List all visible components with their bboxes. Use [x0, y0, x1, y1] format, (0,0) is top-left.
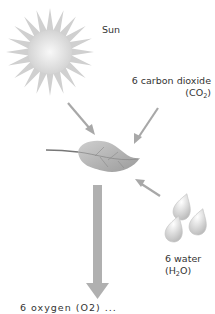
- water-formula: (H2O): [165, 265, 201, 280]
- water-drops-icon: [163, 191, 210, 243]
- leaf-icon: [46, 141, 140, 172]
- arrow-water-to-leaf: [135, 179, 160, 196]
- arrow-sun-to-leaf: [68, 103, 95, 135]
- sun-label: Sun: [102, 24, 120, 36]
- formula-text: O): [180, 265, 191, 276]
- formula-text: ): [207, 87, 211, 98]
- arrow-output-down: [86, 185, 109, 299]
- formula-text: (CO: [185, 87, 203, 98]
- carbon-dioxide-label: 6 carbon dioxide (CO2): [132, 75, 211, 102]
- formula-text: (H: [165, 265, 176, 276]
- arrow-co2-to-leaf: [134, 108, 158, 144]
- sun-icon: [6, 8, 94, 96]
- output-label-clipped: 6 oxygen (O2) ...: [20, 302, 117, 314]
- water-label: 6 water (H2O): [165, 253, 201, 280]
- sun-core: [28, 30, 72, 74]
- carbon-dioxide-name: 6 carbon dioxide: [132, 75, 211, 87]
- water-name: 6 water: [165, 253, 201, 265]
- carbon-dioxide-formula: (CO2): [132, 87, 211, 102]
